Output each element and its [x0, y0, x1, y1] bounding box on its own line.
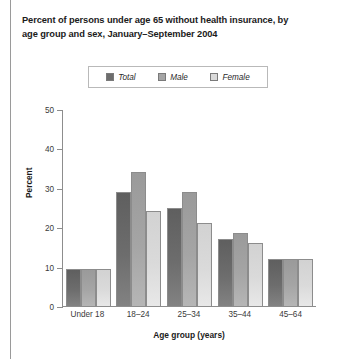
legend-label-female: Female: [222, 73, 249, 82]
bar-total-45-64[interactable]: [268, 259, 283, 306]
bar-group-under-18: [66, 109, 111, 306]
legend-swatch-total: [106, 73, 114, 81]
legend-label-total: Total: [118, 73, 135, 82]
bar-female-25-34[interactable]: [197, 223, 212, 306]
bar-male-35-44[interactable]: [233, 233, 248, 306]
x-axis-title: Age group (years): [62, 330, 316, 340]
bar-total-35-44[interactable]: [218, 239, 233, 306]
chart-title: Percent of persons under age 65 without …: [22, 14, 322, 41]
bar-female-18-24[interactable]: [146, 211, 161, 306]
chart-title-line-1: Percent of persons under age 65 without …: [22, 14, 322, 28]
bar-total-18-24[interactable]: [116, 192, 131, 306]
y-tick-mark: [57, 307, 62, 308]
y-tick-mark: [57, 228, 62, 229]
bar-male-under-18[interactable]: [81, 269, 96, 306]
bar-group-25-34: [167, 109, 212, 306]
bar-groups: [63, 109, 316, 306]
chart-legend: Total Male Female: [88, 66, 268, 88]
bar-group-18-24: [116, 109, 161, 306]
legend-item-male[interactable]: Male: [158, 73, 188, 82]
figure-left-rule: [10, 0, 11, 359]
x-axis-line: [62, 306, 316, 307]
y-tick-label: 0: [49, 303, 54, 312]
y-tick-label: 10: [45, 263, 54, 272]
x-tick-label-under-18: Under 18: [62, 310, 112, 319]
y-tick-label: 20: [45, 224, 54, 233]
x-axis-tick-labels: Under 1818–2425–3435–4445–64: [62, 310, 316, 319]
y-tick-mark: [57, 110, 62, 111]
legend-item-female[interactable]: Female: [210, 73, 249, 82]
bar-group-45-64: [268, 109, 313, 306]
bar-female-35-44[interactable]: [248, 243, 263, 306]
bar-female-under-18[interactable]: [96, 269, 111, 306]
bar-group-35-44: [218, 109, 263, 306]
y-tick-mark: [57, 268, 62, 269]
bar-male-18-24[interactable]: [131, 172, 146, 306]
chart-title-line-2: age group and sex, January–September 200…: [22, 28, 322, 42]
bar-total-under-18[interactable]: [66, 269, 81, 306]
y-tick-label: 30: [45, 184, 54, 193]
y-tick-mark: [57, 189, 62, 190]
bar-male-45-64[interactable]: [283, 259, 298, 306]
x-tick-label-35-44: 35–44: [215, 310, 265, 319]
bar-total-25-34[interactable]: [167, 208, 182, 307]
x-tick-label-25-34: 25–34: [164, 310, 214, 319]
bar-male-25-34[interactable]: [182, 192, 197, 306]
bar-female-45-64[interactable]: [298, 259, 313, 306]
legend-swatch-male: [158, 73, 166, 81]
y-axis-title: Percent: [24, 168, 34, 198]
chart-figure: Percent of persons under age 65 without …: [0, 0, 340, 359]
legend-swatch-female: [210, 73, 218, 81]
x-tick-label-18-24: 18–24: [113, 310, 163, 319]
y-tick-mark: [57, 149, 62, 150]
legend-item-total[interactable]: Total: [106, 73, 135, 82]
plot-area: 01020304050: [62, 110, 316, 307]
y-tick-label: 40: [45, 145, 54, 154]
x-tick-label-45-64: 45–64: [266, 310, 316, 319]
y-tick-label: 50: [45, 106, 54, 115]
legend-label-male: Male: [170, 73, 188, 82]
